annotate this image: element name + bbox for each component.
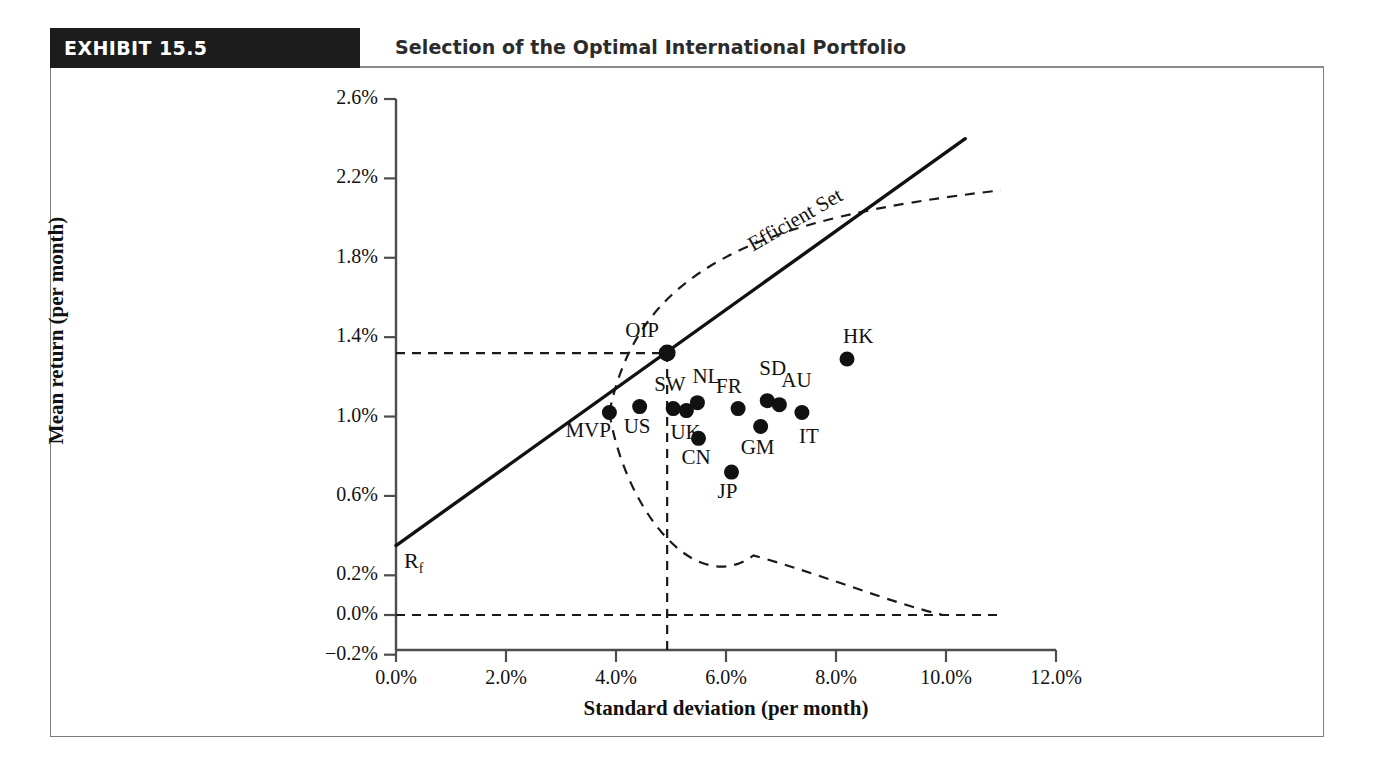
point-label-mvp: MVP — [565, 418, 611, 443]
capital-market-line — [396, 139, 965, 546]
y-tick-label: 2.2% — [286, 165, 378, 188]
y-tick-label: 1.4% — [286, 324, 378, 347]
x-tick-label: 8.0% — [786, 666, 886, 689]
data-point-it — [794, 405, 809, 420]
point-label-sw: SW — [654, 372, 686, 397]
point-label-fr: FR — [716, 374, 742, 399]
risk-free-rate-label: Rf — [404, 548, 423, 577]
point-label-gm: GM — [741, 435, 775, 460]
point-label-cn: CN — [682, 445, 711, 470]
y-axis-title: Mean return (per month) — [44, 181, 69, 481]
data-point-oip — [659, 345, 676, 362]
x-axis-title: Standard deviation (per month) — [426, 696, 1026, 721]
plot-canvas — [0, 0, 1374, 774]
x-tick-label: 6.0% — [676, 666, 776, 689]
y-tick-label: 0.6% — [286, 483, 378, 506]
point-label-us: US — [624, 414, 651, 439]
point-label-hk: HK — [843, 324, 873, 349]
data-point-hk — [840, 351, 855, 366]
data-point-fr — [731, 401, 746, 416]
y-tick-label: 1.8% — [286, 245, 378, 268]
rf-letter: R — [404, 548, 419, 573]
y-tick-label: 0.0% — [286, 602, 378, 625]
exhibit-page: EXHIBIT 15.5 Selection of the Optimal In… — [0, 0, 1374, 774]
data-point-us — [632, 399, 647, 414]
y-tick-label: 2.6% — [286, 86, 378, 109]
data-point-group — [602, 345, 855, 480]
point-label-au: AU — [781, 368, 811, 393]
point-label-uk: UK — [670, 420, 700, 445]
data-point-jp — [724, 465, 739, 480]
x-tick-label: 2.0% — [456, 666, 556, 689]
data-point-nl — [690, 395, 705, 410]
x-tick-label: 4.0% — [566, 666, 666, 689]
y-tick-label: −0.2% — [286, 642, 378, 665]
x-tick-label: 12.0% — [1006, 666, 1106, 689]
rf-subscript: f — [419, 561, 424, 576]
y-tick-label: 0.2% — [286, 562, 378, 585]
x-tick-label: 10.0% — [896, 666, 996, 689]
data-point-gm — [753, 419, 768, 434]
data-point-au — [772, 397, 787, 412]
y-tick-label: 1.0% — [286, 404, 378, 427]
point-label-it: IT — [799, 424, 819, 449]
x-tick-label: 0.0% — [346, 666, 446, 689]
scatter-plot: 2.6%2.2%1.8%1.4%1.0%0.6%0.2%0.0%−0.2%0.0… — [0, 0, 1374, 774]
point-label-jp: JP — [718, 479, 738, 504]
data-point-sw — [666, 401, 681, 416]
point-label-oip: OIP — [625, 318, 659, 343]
